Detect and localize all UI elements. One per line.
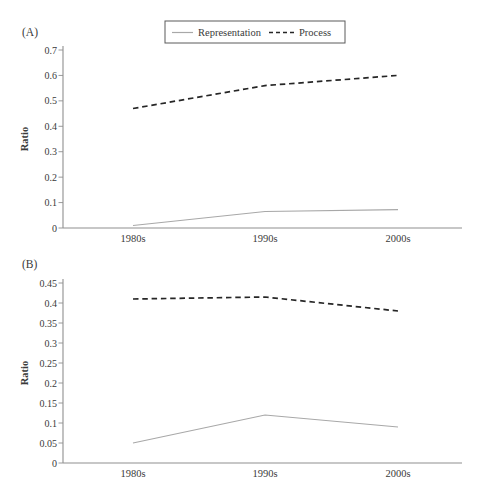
y-tick-label: 0.1 — [45, 418, 58, 429]
x-tick-label: 1980s — [120, 468, 145, 479]
y-tick-label: 0 — [52, 223, 57, 234]
series-line-representation — [133, 415, 398, 443]
y-tick-label: 0.2 — [45, 378, 58, 389]
y-tick-label: 0.1 — [45, 197, 58, 208]
y-tick-label: 0.3 — [45, 338, 58, 349]
y-tick-label: 0.3 — [45, 146, 58, 157]
series-line-process — [133, 75, 398, 108]
y-tick-label: 0.05 — [40, 438, 58, 449]
y-axis-title: Ratio — [19, 127, 30, 152]
y-tick-label: 0.7 — [45, 45, 58, 56]
y-tick-label: 0.15 — [40, 398, 58, 409]
y-tick-label: 0.6 — [45, 70, 58, 81]
x-tick-label: 2000s — [385, 468, 410, 479]
panel-label: (B) — [22, 258, 38, 271]
legend-process-label: Process — [299, 27, 331, 38]
x-tick-label: 2000s — [385, 233, 410, 244]
series-line-process — [133, 297, 398, 311]
panel-label: (A) — [22, 26, 38, 39]
series-line-representation — [133, 210, 398, 226]
y-tick-label: 0.5 — [45, 95, 58, 106]
y-tick-label: 0.4 — [45, 298, 58, 309]
y-tick-label: 0.35 — [40, 318, 58, 329]
y-axis-title: Ratio — [19, 361, 30, 386]
y-tick-label: 0.4 — [45, 121, 58, 132]
y-tick-label: 0 — [52, 458, 57, 469]
chart-panel-b: (B)00.050.10.150.20.250.30.350.40.45Rati… — [0, 250, 479, 495]
y-tick-label: 0.2 — [45, 172, 58, 183]
x-tick-label: 1980s — [120, 233, 145, 244]
y-tick-label: 0.45 — [40, 278, 58, 289]
chart-panel-a: (A)00.10.20.30.40.50.60.7Ratio1980s1990s… — [0, 0, 479, 250]
legend-representation-label: Representation — [198, 27, 262, 38]
two-panel-line-chart-figure: (A)00.10.20.30.40.50.60.7Ratio1980s1990s… — [0, 0, 479, 495]
x-tick-label: 1990s — [252, 233, 277, 244]
x-tick-label: 1990s — [252, 468, 277, 479]
y-tick-label: 0.25 — [40, 358, 58, 369]
